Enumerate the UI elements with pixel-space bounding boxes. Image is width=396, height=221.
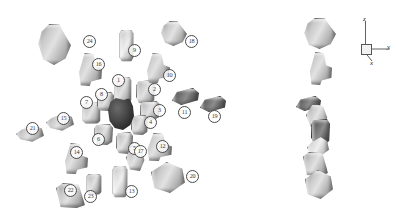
part-label-18: 18: [185, 35, 198, 48]
part-label-17: 17: [134, 145, 147, 158]
part-label-2: 2: [148, 83, 161, 96]
axis-label-z: z: [363, 15, 366, 23]
part-label-16: 16: [92, 58, 105, 71]
part-label-14: 14: [70, 146, 83, 159]
part-label-15: 15: [57, 112, 70, 125]
part-label-22: 22: [64, 184, 77, 197]
part-label-20: 20: [186, 170, 199, 183]
part-label-13: 13: [125, 185, 138, 198]
part-label-12: 12: [156, 140, 169, 153]
part-label-8: 8: [95, 88, 108, 101]
part-label-3: 3: [153, 104, 166, 117]
part-18: [160, 21, 187, 46]
part-label-21: 21: [26, 122, 39, 135]
part-label-7: 7: [80, 96, 93, 109]
part-label-19: 19: [208, 110, 221, 123]
part-label-6: 6: [92, 133, 105, 146]
part-label-1: 1: [112, 74, 125, 87]
part-label-11: 11: [178, 106, 191, 119]
part-label-10: 10: [163, 69, 176, 82]
assembled-part-2: [305, 52, 332, 85]
part-11: [172, 88, 199, 105]
assembled-part-1: [303, 18, 336, 49]
part-24: [37, 24, 71, 65]
part-label-24: 24: [83, 35, 96, 48]
part-label-23: 23: [84, 190, 97, 203]
figure-canvas: 123456789101112131415161718192021222324 …: [0, 0, 396, 221]
assembled-stack-panel: [280, 0, 350, 221]
dark-core-cluster: [108, 98, 134, 130]
axis-label-y: y: [387, 43, 390, 51]
axis-origin-cube-icon: [361, 44, 372, 55]
part-label-4: 4: [144, 116, 157, 129]
exploded-view-panel: 123456789101112131415161718192021222324: [0, 0, 250, 221]
axis-indicator: z y x: [352, 16, 394, 68]
part-20: [151, 162, 185, 193]
part-label-9: 9: [128, 44, 141, 57]
axis-label-x: x: [370, 59, 373, 67]
